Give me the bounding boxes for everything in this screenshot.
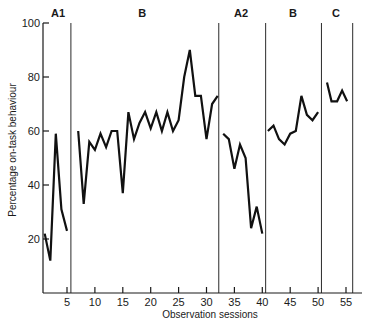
y-axis-title: Percentage on-task behaviour	[7, 83, 18, 217]
series-group	[45, 50, 347, 261]
x-ticks: 510152025303540455055	[64, 287, 352, 308]
phase-label: B	[138, 7, 146, 19]
x-tick-label: 20	[145, 296, 157, 308]
series-line-a2-2	[223, 134, 262, 234]
x-tick-label: 5	[64, 296, 70, 308]
x-axis-title: Observation sessions	[162, 309, 258, 320]
phase-lines	[71, 23, 353, 293]
x-tick-label: 55	[340, 296, 352, 308]
x-tick-label: 50	[312, 296, 324, 308]
phase-label: B	[289, 7, 297, 19]
y-tick-label: 20	[28, 233, 40, 245]
series-line-b-1	[78, 50, 218, 204]
y-tick-label: 100	[22, 17, 40, 29]
x-tick-label: 40	[256, 296, 268, 308]
x-tick-label: 35	[228, 296, 240, 308]
x-tick-label: 45	[284, 296, 296, 308]
y-ticks: 20406080100	[22, 17, 49, 245]
y-tick-label: 60	[28, 125, 40, 137]
y-tick-label: 80	[28, 71, 40, 83]
phase-label: A1	[51, 7, 65, 19]
series-line-c-4	[327, 82, 347, 101]
phase-label: A2	[234, 7, 248, 19]
x-tick-label: 10	[89, 296, 101, 308]
series-line-a1-0	[45, 134, 67, 261]
series-line-b-3	[268, 96, 318, 145]
phase-label: C	[332, 7, 340, 19]
chart: 20406080100 510152025303540455055 A1BA2B…	[0, 0, 365, 328]
y-tick-label: 40	[28, 179, 40, 191]
phase-labels: A1BA2BC	[51, 7, 340, 19]
x-tick-label: 15	[117, 296, 129, 308]
x-tick-label: 30	[200, 296, 212, 308]
x-tick-label: 25	[172, 296, 184, 308]
